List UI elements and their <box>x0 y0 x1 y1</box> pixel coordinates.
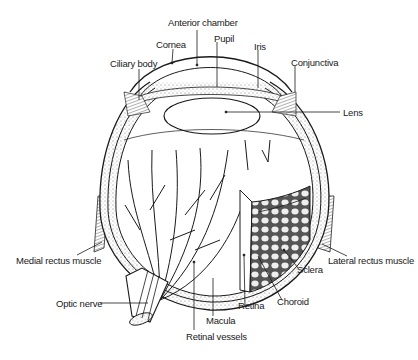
lens <box>164 98 260 134</box>
label-iris: Iris <box>254 42 266 52</box>
label-ciliary-body: Ciliary body <box>110 59 157 69</box>
label-lens: Lens <box>343 108 363 118</box>
choroid-layer <box>250 186 310 292</box>
label-conjunctiva: Conjunctiva <box>291 58 338 68</box>
label-choroid: Choroid <box>277 297 309 307</box>
label-sclera: Sclera <box>297 265 323 275</box>
label-medial-rectus-muscle: Medial rectus muscle <box>16 256 101 266</box>
label-retina: Retina <box>238 301 264 311</box>
label-retinal-vessels: Retinal vessels <box>186 332 247 342</box>
label-pupil: Pupil <box>214 34 234 44</box>
label-optic-nerve: Optic nerve <box>56 299 102 309</box>
label-lateral-rectus-muscle: Lateral rectus muscle <box>328 256 414 266</box>
label-macula: Macula <box>206 316 235 326</box>
label-cornea: Cornea <box>156 40 186 50</box>
label-anterior-chamber: Anterior chamber <box>168 18 238 28</box>
